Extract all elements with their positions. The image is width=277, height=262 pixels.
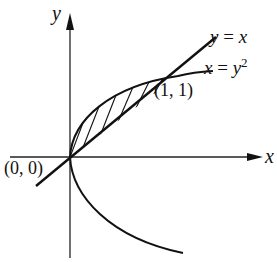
intersection-point-label: (1, 1) [154, 81, 193, 99]
parabola-equation-rhs: y [233, 57, 241, 78]
parabola-equation-exponent: 2 [241, 55, 248, 70]
line-equation-lhs: y [210, 26, 218, 47]
line-equation-rhs: x [239, 26, 247, 47]
origin-point-label: (0, 0) [4, 159, 43, 177]
line-y-equals-x [36, 37, 216, 186]
y-axis-label: y [52, 3, 61, 23]
parabola-equation-lhs: x [204, 57, 212, 78]
x-axis-arrow-icon [247, 153, 263, 161]
parabola-equation-op: = [217, 57, 228, 78]
line-equation-label: y = x [210, 27, 247, 46]
parabola-equation-label: x = y2 [204, 58, 248, 77]
y-axis-arrow-icon [66, 13, 74, 30]
y-axis [66, 13, 74, 258]
x-axis-label: x [265, 146, 274, 166]
x-axis [10, 153, 263, 161]
line-equation-op: = [223, 26, 234, 47]
